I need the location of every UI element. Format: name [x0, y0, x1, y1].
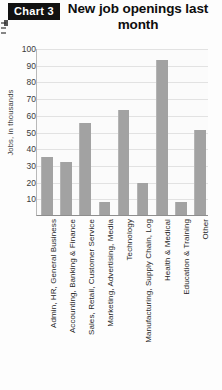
chart-plot-area: 100908070605040302010 Jobs, in thousands [0, 44, 222, 219]
bar [118, 110, 130, 215]
bar-series [37, 49, 208, 215]
bar [60, 162, 72, 215]
chart-page: Chart 3 New job openings last month 1009… [0, 0, 222, 390]
x-axis-label: Marketing, Advertising, Media [106, 219, 115, 327]
bar [175, 202, 187, 215]
chart-number-badge: Chart 3 [8, 3, 60, 20]
x-axis-label: Health & Medical [163, 219, 172, 281]
plot-canvas [36, 49, 208, 216]
y-axis-tick-label: 90 [2, 62, 36, 70]
page-title: New job openings last month [58, 1, 218, 33]
y-axis-tick-label: 20 [2, 179, 36, 187]
x-axis-label: Sales, Retail, Customer Service [87, 219, 96, 335]
x-axis-label: Manufacturing, Supply Chain, Log [144, 219, 153, 343]
x-axis-label: Technology [125, 219, 134, 260]
bar [137, 183, 149, 215]
x-axis-label: Other [201, 219, 210, 240]
bar [194, 130, 206, 215]
bar [99, 202, 111, 215]
chart-header: Chart 3 New job openings last month [0, 0, 222, 40]
x-axis-label: Education & Training [182, 219, 191, 295]
bar [41, 157, 53, 215]
x-axis-label: Admin, HR, General Business [49, 219, 58, 328]
bar [79, 123, 91, 215]
x-axis-label: Accounting, Banking & Finance [68, 219, 77, 333]
y-axis-tick-label: 10 [2, 195, 36, 203]
bar [156, 60, 168, 215]
y-axis-label: Jobs, in thousands [6, 73, 15, 173]
x-axis-labels: Admin, HR, General BusinessAccounting, B… [36, 219, 208, 387]
y-axis-tick-label: 100 [2, 45, 36, 53]
